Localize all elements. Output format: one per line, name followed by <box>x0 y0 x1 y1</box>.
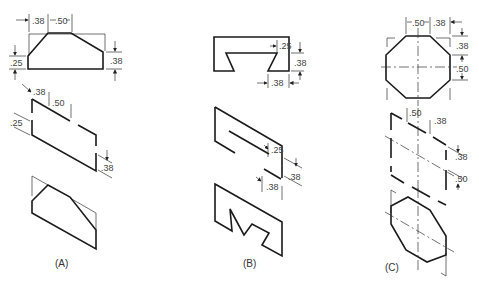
dim-c-top-middle-height: .50 <box>456 64 469 74</box>
dim-b-iso-bottom-width: .38 <box>266 182 279 192</box>
panel-c: .50 .38 .38 .50 .50 .38 <box>381 17 469 276</box>
dim-b-iso-notch: .25 <box>271 145 284 155</box>
dim-a-top-left-height: .25 <box>10 58 23 68</box>
dim-c-iso-right-offset: .38 <box>434 116 447 126</box>
panel-b-label: (B) <box>243 258 256 269</box>
dim-a-iso-width: .50 <box>52 98 65 108</box>
dim-c-top-upper-height: .38 <box>456 41 469 51</box>
dim-b-top-right-height: .38 <box>294 58 307 68</box>
dim-a-iso-offset: .38 <box>33 87 46 97</box>
dim-a-iso-left-height: .25 <box>10 118 23 128</box>
isometric-drawing-figure: .38 .50 .25 .38 .38 .50 <box>0 0 479 281</box>
dim-a-top-right-height: .38 <box>110 56 123 66</box>
panel-b-iso-final <box>215 184 282 256</box>
panel-c-top-view: .50 .38 .38 .50 <box>381 17 469 106</box>
panel-c-iso-construction: .50 .38 .38 .50 <box>385 108 468 205</box>
panel-a-iso-construction: .38 .50 .25 .38 <box>10 84 114 178</box>
dim-a-iso-right-height: .38 <box>101 163 114 173</box>
dim-c-iso-upper-height: .38 <box>455 152 468 162</box>
dim-b-top-bottom-width: .38 <box>271 78 284 88</box>
dim-b-iso-right-height: .38 <box>288 172 301 182</box>
dim-c-top-right-offset: .38 <box>433 18 446 28</box>
panel-a-top-view: .38 .50 .25 .38 <box>9 14 123 81</box>
panel-a-iso-final <box>32 176 96 249</box>
dim-c-iso-middle-height: .50 <box>455 174 468 184</box>
panel-a-label: (A) <box>55 258 68 269</box>
dim-a-top-offset: .38 <box>32 16 45 26</box>
dim-a-top-width: .50 <box>55 16 68 26</box>
panel-b-top-view: .25 .38 .38 <box>214 37 307 88</box>
dim-c-top-width: .50 <box>412 18 425 28</box>
panel-b-iso-construction: .25 .38 .38 <box>215 107 302 200</box>
dim-c-iso-width: .50 <box>409 108 422 118</box>
dim-b-top-notch: .25 <box>279 41 292 51</box>
panel-b: .25 .38 .38 .25 .38 <box>214 37 307 269</box>
panel-a: .38 .50 .25 .38 .38 .50 <box>9 14 123 269</box>
panel-c-label: (C) <box>385 262 399 273</box>
